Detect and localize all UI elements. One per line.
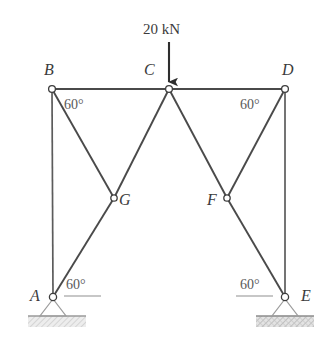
member-GC [114, 89, 169, 198]
pin-triangle-A [40, 299, 66, 316]
truss-figure: 20 kN B C D G F A E 60° 60° 60° 60° [0, 0, 332, 348]
angle-label-at-B: 60° [64, 98, 84, 112]
joint-E [281, 293, 288, 300]
joint-F [224, 195, 230, 201]
load-label: 20 kN [143, 22, 180, 37]
ground-hatch-E [256, 316, 314, 327]
member-CF [169, 89, 227, 198]
truss-drawing-canvas [0, 0, 332, 348]
angle-label-at-E: 60° [240, 278, 260, 292]
angle-label-at-A: 60° [66, 278, 86, 292]
member-AB [52, 89, 53, 297]
joint-A [49, 293, 56, 300]
ground-hatch-A [28, 316, 86, 327]
joint-label-D: D [282, 62, 294, 78]
joint-label-B: B [44, 62, 54, 78]
joint-D [282, 86, 289, 93]
joint-label-G: G [119, 192, 131, 208]
joint-label-E: E [301, 288, 311, 304]
angle-label-at-D: 60° [240, 98, 260, 112]
joint-label-F: F [207, 192, 217, 208]
pin-triangle-E [272, 299, 298, 316]
joint-label-A: A [30, 288, 40, 304]
joint-C [166, 86, 173, 93]
joint-B [49, 86, 56, 93]
joint-label-C: C [144, 62, 155, 78]
joint-G [111, 195, 117, 201]
